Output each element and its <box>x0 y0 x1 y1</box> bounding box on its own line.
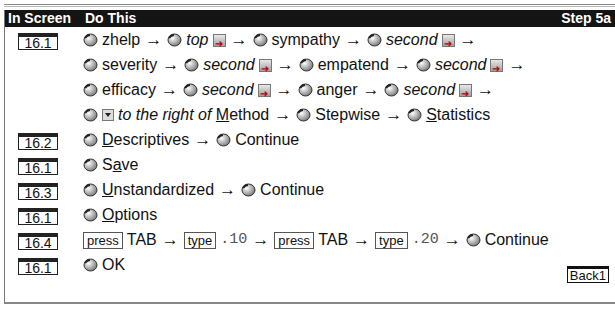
arrow-icon: → <box>508 53 525 77</box>
press-key-label: press <box>83 232 123 249</box>
press-key-label: press <box>274 232 314 249</box>
dropdown-icon[interactable] <box>102 109 114 121</box>
save-mnemonic: a <box>113 153 122 177</box>
screen-ref: 16.1 <box>18 158 58 175</box>
instruction-line: zhelp → top➜ → sympathy → second➜ → <box>83 28 482 52</box>
instruction-line: to the right of Method → Stepwise → Stat… <box>83 103 490 127</box>
mouse-click-icon <box>83 258 98 272</box>
instruction-table: In Screen Do This Step 5a 16.1 16.2 16.1… <box>4 10 615 304</box>
statistics-mnemonic: S <box>426 103 437 127</box>
options-mnemonic: O <box>102 203 114 227</box>
position-label: top <box>186 28 208 52</box>
step-label: Step 5a <box>561 10 611 27</box>
arrow-button-icon[interactable]: ➜ <box>490 59 503 72</box>
mouse-click-icon <box>184 58 199 72</box>
mouse-click-icon <box>298 83 313 97</box>
mouse-click-icon <box>296 108 311 122</box>
mouse-click-icon <box>83 158 98 172</box>
screen-ref: 16.2 <box>18 133 58 150</box>
screen-ref: 16.1 <box>18 33 58 50</box>
instruction-line: severity → second➜ → empatend → second➜ … <box>83 53 530 77</box>
position-label: second <box>203 53 255 77</box>
mouse-click-icon <box>416 58 431 72</box>
arrow-icon: → <box>219 178 236 202</box>
arrow-icon: → <box>277 53 294 77</box>
arrow-icon: → <box>394 53 411 77</box>
header-in-screen: In Screen <box>8 10 71 27</box>
mouse-click-icon <box>167 33 182 47</box>
screen-ref: 16.4 <box>18 233 58 250</box>
statistics-button[interactable]: tatistics <box>437 103 490 127</box>
method-label: ethod <box>229 103 269 127</box>
arrow-button-icon[interactable]: ➜ <box>442 34 455 47</box>
var-sympathy[interactable]: sympathy <box>272 28 340 52</box>
arrow-icon: → <box>162 53 179 77</box>
position-label: to the right of <box>118 103 211 127</box>
table-header: In Screen Do This Step 5a <box>5 10 615 27</box>
var-empatend[interactable]: empatend <box>318 53 389 77</box>
arrow-button-icon[interactable]: ➜ <box>259 59 272 72</box>
top-rule-secondary <box>4 6 615 7</box>
instruction-line: Options <box>83 203 157 227</box>
save-button[interactable]: S <box>102 153 113 177</box>
var-anger[interactable]: anger <box>317 78 358 102</box>
arrow-icon: → <box>194 128 211 152</box>
arrow-button-icon[interactable]: ➜ <box>213 34 226 47</box>
instruction-line: efficacy → second➜ → anger → second➜ → <box>83 78 499 102</box>
header-do-this: Do This <box>85 10 136 27</box>
instruction-line: Descriptives → Continue <box>83 128 299 152</box>
mouse-click-icon <box>83 208 98 222</box>
options-button[interactable]: ptions <box>114 203 157 227</box>
arrow-icon: → <box>477 78 494 102</box>
arrow-icon: → <box>345 28 362 52</box>
descriptives-mnemonic: D <box>102 128 114 152</box>
mouse-click-icon <box>299 58 314 72</box>
back-link[interactable]: Back1 <box>567 266 609 283</box>
screen-ref: 16.1 <box>18 258 58 275</box>
mouse-click-icon <box>83 58 98 72</box>
tab-key: TAB <box>318 228 348 252</box>
instruction-line: OK <box>83 253 125 277</box>
mouse-click-icon <box>241 183 256 197</box>
type-label: type <box>375 232 408 249</box>
continue-button[interactable]: Continue <box>485 228 549 252</box>
top-rule <box>4 4 615 5</box>
type-label: type <box>184 232 217 249</box>
mouse-click-icon <box>183 83 198 97</box>
removal-value[interactable]: .20 <box>412 228 439 252</box>
var-efficacy[interactable]: efficacy <box>102 78 156 102</box>
arrow-icon: → <box>385 103 402 127</box>
screen-ref: 16.3 <box>18 183 58 200</box>
arrow-icon: → <box>274 103 291 127</box>
arrow-button-icon[interactable]: ➜ <box>258 84 271 97</box>
instruction-line: Save <box>83 153 138 177</box>
position-label: second <box>202 78 254 102</box>
unstandardized-checkbox[interactable]: nstandardized <box>114 178 215 202</box>
stepwise-option[interactable]: Stepwise <box>315 103 380 127</box>
continue-button[interactable]: Continue <box>235 128 299 152</box>
arrow-icon: → <box>276 78 293 102</box>
tab-key: TAB <box>127 228 157 252</box>
mouse-click-icon <box>253 33 268 47</box>
entry-value[interactable]: .10 <box>220 228 247 252</box>
continue-button[interactable]: Continue <box>260 178 324 202</box>
mouse-click-icon <box>83 33 98 47</box>
arrow-icon: → <box>460 28 477 52</box>
position-label: second <box>386 28 438 52</box>
mouse-click-icon <box>83 183 98 197</box>
mouse-click-icon <box>367 33 382 47</box>
ok-button[interactable]: OK <box>102 253 125 277</box>
save-button-rest[interactable]: ve <box>122 153 139 177</box>
arrow-icon: → <box>444 228 461 252</box>
position-label: second <box>435 53 487 77</box>
descriptives-checkbox[interactable]: escriptives <box>114 128 190 152</box>
mouse-click-icon <box>83 83 98 97</box>
var-severity[interactable]: severity <box>102 53 157 77</box>
arrow-button-icon[interactable]: ➜ <box>459 84 472 97</box>
instruction-line: pressTAB → type.10 → pressTAB → type.20 … <box>83 228 549 252</box>
arrow-icon: → <box>353 228 370 252</box>
var-zhelp[interactable]: zhelp <box>102 28 140 52</box>
mouse-click-icon <box>384 83 399 97</box>
arrow-icon: → <box>161 78 178 102</box>
arrow-icon: → <box>145 28 162 52</box>
